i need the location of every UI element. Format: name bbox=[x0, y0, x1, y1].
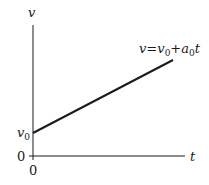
x-origin-label: 0 bbox=[29, 163, 37, 178]
y-origin-label: 0 bbox=[17, 149, 25, 164]
velocity-line bbox=[33, 60, 173, 133]
x-axis-label: t bbox=[190, 149, 196, 164]
velocity-time-graph: v t 0 0 v0 v=v0+a0t bbox=[0, 0, 209, 185]
y-axis-label: v bbox=[28, 5, 36, 20]
equation-annotation: v=v0+a0t bbox=[139, 41, 201, 58]
intercept-label: v0 bbox=[17, 125, 30, 142]
